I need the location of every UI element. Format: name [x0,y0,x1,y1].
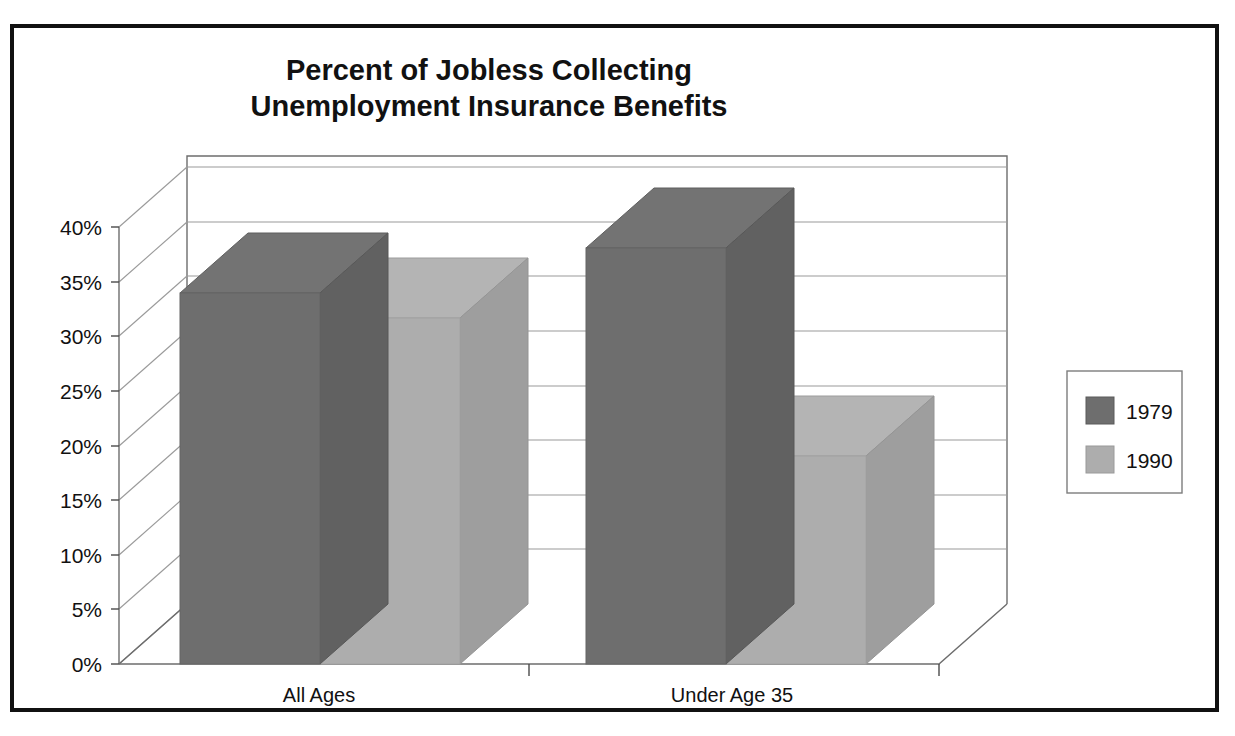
y-tick-label-35: 35% [60,271,102,294]
x-axis-labels: All Ages Under Age 35 [283,684,793,706]
legend-swatch-1990 [1086,446,1114,473]
y-tick-label-5: 5% [72,598,102,621]
depth-connectors [119,167,187,664]
bar-under-35-1979 [586,188,794,664]
bar-all-ages-1979 [180,233,388,664]
y-axis-ticks [111,227,119,664]
chart-title-line1: Percent of Jobless Collecting [286,54,692,86]
y-axis-labels: 40% 35% 30% 25% 20% 15% 10% 5% 0% [60,216,102,676]
y-tick-label-40: 40% [60,216,102,239]
y-tick-label-30: 30% [60,325,102,348]
y-tick-label-10: 10% [60,544,102,567]
chart-title-line2: Unemployment Insurance Benefits [251,90,728,122]
y-tick-label-15: 15% [60,489,102,512]
legend-swatch-1979 [1086,397,1114,424]
y-tick-label-20: 20% [60,435,102,458]
chart-legend: 1979 1990 [1067,371,1182,493]
chart-page: Percent of Jobless Collecting Unemployme… [0,0,1235,736]
legend-box [1067,371,1182,493]
bar-chart: Percent of Jobless Collecting Unemployme… [14,28,1215,708]
chart-frame: Percent of Jobless Collecting Unemployme… [10,24,1219,712]
legend-label-1979: 1979 [1126,400,1173,423]
y-tick-label-0: 0% [72,653,102,676]
x-tick-label-all-ages: All Ages [283,684,355,706]
y-tick-label-25: 25% [60,380,102,403]
x-axis-ticks [529,664,939,676]
legend-label-1990: 1990 [1126,449,1173,472]
x-tick-label-under-35: Under Age 35 [671,684,793,706]
